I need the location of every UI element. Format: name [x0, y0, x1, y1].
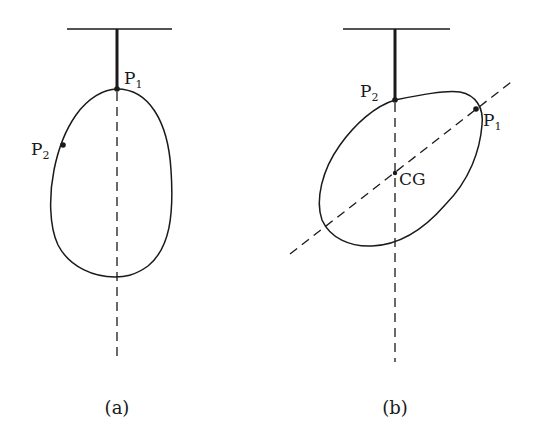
panel-b: P2 P1 CG (b) [290, 29, 515, 418]
label-p1-a: P1 [124, 68, 142, 91]
caption-a: (a) [105, 397, 130, 418]
label-cg-b: CG [399, 169, 426, 189]
point-p2-a [60, 142, 66, 148]
label-p1-b: P1 [483, 110, 501, 133]
point-cg-b [393, 171, 397, 175]
caption-b: (b) [382, 397, 408, 418]
label-p2-a: P2 [31, 139, 49, 162]
label-p2-b: P2 [360, 81, 378, 104]
point-p2-b [392, 97, 398, 103]
point-p1-a [114, 86, 120, 92]
point-p1-b [473, 106, 479, 112]
panel-a: P1 P2 (a) [31, 29, 172, 418]
plumb-line-b-diagonal [290, 79, 515, 254]
body-outline-a [51, 89, 172, 277]
center-of-gravity-diagram: P1 P2 (a) P2 P1 CG (b) [0, 0, 541, 438]
